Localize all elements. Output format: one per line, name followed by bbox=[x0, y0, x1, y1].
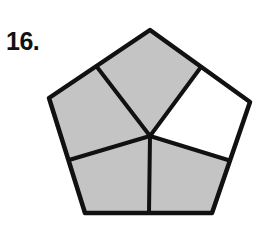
worksheet-problem: 16. bbox=[0, 0, 274, 233]
pentagon-fraction-figure bbox=[0, 0, 274, 233]
